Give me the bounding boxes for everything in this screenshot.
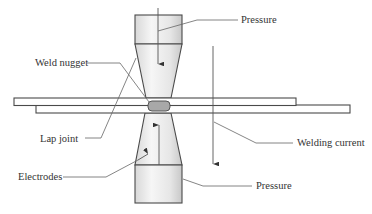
upper-electrode-body bbox=[135, 15, 182, 44]
lower-electrode-body bbox=[135, 165, 182, 203]
weld-nugget bbox=[148, 101, 170, 111]
leader-pressure-bottom bbox=[183, 179, 252, 186]
label-weld-nugget: Weld nugget bbox=[35, 57, 88, 68]
label-welding-current: Welding current bbox=[297, 137, 365, 148]
spot-welding-diagram: Pressure Weld nugget Lap joint Welding c… bbox=[0, 0, 372, 214]
label-pressure-top: Pressure bbox=[241, 14, 277, 25]
lower-sheet bbox=[36, 105, 350, 113]
upper-electrode bbox=[135, 15, 182, 98]
leader-welding-current bbox=[214, 122, 293, 143]
leader-electrodes bbox=[63, 160, 138, 177]
upper-electrode-tip bbox=[135, 44, 182, 98]
label-pressure-bottom: Pressure bbox=[256, 180, 292, 191]
label-electrodes: Electrodes bbox=[18, 171, 62, 182]
label-lap-joint: Lap joint bbox=[40, 133, 78, 144]
